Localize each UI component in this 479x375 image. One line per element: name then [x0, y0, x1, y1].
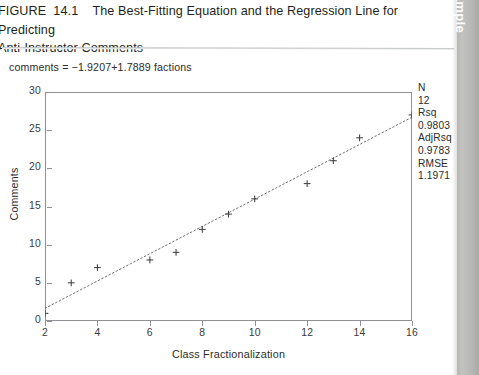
x-tick-label: 4: [83, 327, 111, 338]
x-tick-mark: [150, 321, 151, 326]
plot-canvas: [45, 92, 412, 321]
data-point: [304, 180, 311, 187]
y-axis-title: Comments: [8, 154, 20, 234]
x-tick-label: 12: [293, 327, 321, 338]
y-tick-mark: [47, 130, 52, 131]
y-tick-mark: [47, 245, 52, 246]
y-tick-label: 5: [15, 276, 41, 287]
data-point: [45, 310, 48, 317]
x-tick-label: 6: [136, 327, 164, 338]
y-tick-mark: [47, 283, 52, 284]
x-tick-label: 2: [31, 327, 59, 338]
data-point: [251, 195, 258, 202]
y-tick-mark: [47, 321, 52, 322]
y-tick-mark: [47, 92, 52, 93]
data-point: [409, 112, 412, 119]
x-tick-mark: [412, 321, 413, 326]
y-tick-mark: [47, 207, 52, 208]
x-tick-label: 8: [188, 327, 216, 338]
y-tick-label: 10: [15, 238, 41, 249]
y-tick-label: 0: [15, 314, 41, 325]
data-point: [94, 264, 101, 271]
x-tick-mark: [202, 321, 203, 326]
x-tick-label: 14: [346, 327, 374, 338]
y-tick-label: 30: [15, 85, 41, 96]
x-tick-mark: [307, 321, 308, 326]
data-point: [199, 226, 206, 233]
data-point: [68, 279, 75, 286]
x-axis-title: Class Fractionalization: [45, 348, 412, 360]
x-tick-mark: [97, 321, 98, 326]
x-tick-label: 16: [398, 327, 426, 338]
figure-header: FIGURE 14.1 The Best-Fitting Equation an…: [0, 2, 452, 42]
y-tick-mark: [47, 168, 52, 169]
x-tick-mark: [45, 321, 46, 326]
x-tick-mark: [360, 321, 361, 326]
x-tick-mark: [255, 321, 256, 326]
data-point: [330, 157, 337, 164]
scatter-plot: 051015202530 Comments 246810121416 Class…: [0, 80, 452, 375]
regression-equation: comments = −1.9207+1.7889 factions: [9, 61, 192, 73]
data-point: [356, 134, 363, 141]
example-side-tab: Example: [457, 0, 479, 375]
data-point: [173, 249, 180, 256]
example-side-tab-label: Example: [453, 0, 468, 33]
x-tick-label: 10: [241, 327, 269, 338]
y-tick-label: 25: [15, 123, 41, 134]
data-point: [146, 257, 153, 264]
